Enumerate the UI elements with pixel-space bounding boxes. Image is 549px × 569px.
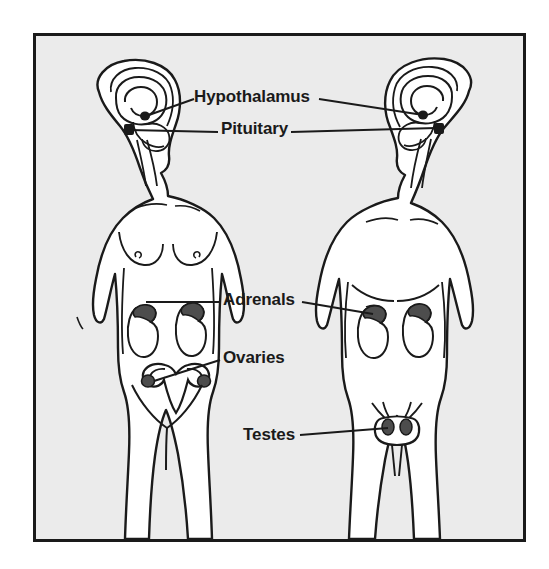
male-testis-right-gland: [400, 419, 412, 435]
male-penis-line: [392, 445, 395, 476]
female-figure: [77, 60, 244, 539]
label-hypothalamus: Hypothalamus: [194, 88, 310, 105]
female-ovary-right-gland: [198, 375, 211, 387]
diagram-frame: Hypothalamus Pituitary Adrenals Ovaries …: [33, 33, 526, 542]
female-inner-thigh-line: [166, 428, 167, 470]
label-pituitary: Pituitary: [221, 120, 288, 137]
female-navel: [77, 317, 83, 329]
male-penis-line-2: [399, 445, 402, 476]
label-adrenals: Adrenals: [223, 291, 295, 308]
diagram-page: Hypothalamus Pituitary Adrenals Ovaries …: [0, 0, 549, 569]
label-testes: Testes: [243, 426, 295, 443]
male-testis-left-gland: [382, 419, 394, 435]
female-ovary-left-gland: [142, 375, 155, 387]
endocrine-diagram: [36, 36, 523, 539]
male-scrotum: [375, 417, 419, 446]
label-ovaries: Ovaries: [223, 349, 285, 366]
